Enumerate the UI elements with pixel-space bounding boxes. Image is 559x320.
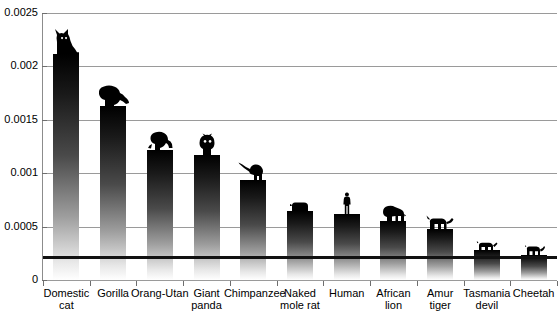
bar-chart: 0.00250.0020.00150.0010.00050 Domesticca… (0, 0, 559, 320)
category-label: Cheetah (504, 287, 559, 299)
tasmanian-devil-icon (476, 241, 498, 250)
x-axis-tick-mark (230, 281, 231, 286)
gorilla-icon (96, 84, 130, 106)
category-label-line1: Cheetah (513, 287, 555, 299)
category-label-line1: Naked (284, 287, 316, 299)
y-axis-tick-text: 0.001 (0, 167, 38, 178)
bar (521, 255, 547, 280)
bar (53, 54, 79, 280)
x-axis-tick-mark (90, 281, 91, 286)
bar (334, 214, 360, 280)
y-axis-tick-text: 0.0005 (0, 221, 38, 232)
bar (100, 106, 126, 280)
y-axis-tick-label: 0.0025 (0, 7, 38, 18)
y-axis-tick-mark (42, 13, 47, 14)
y-axis-tick-label: 0.002 (0, 60, 38, 71)
x-axis-tick-mark (136, 281, 137, 286)
tiger-icon (426, 215, 454, 229)
category-label-line1: Gorilla (97, 287, 129, 299)
y-axis-tick-label: 0.001 (0, 167, 38, 178)
y-axis-tick-text: 0.0025 (0, 7, 38, 18)
human-icon (342, 192, 352, 214)
plot-top-border (43, 13, 557, 14)
y-axis-tick-mark (42, 66, 47, 67)
x-axis-tick-mark (277, 281, 278, 286)
y-axis-tick-label: 0.0015 (0, 114, 38, 125)
y-axis-tick-mark (42, 227, 47, 228)
y-axis-tick-mark (42, 120, 47, 121)
y-axis-tick-text: 0.0015 (0, 114, 38, 125)
y-axis-tick-mark (42, 173, 47, 174)
y-axis-line (42, 13, 43, 280)
category-label-line2: mole rat (271, 299, 330, 311)
panda-icon (196, 133, 218, 155)
bar (147, 150, 173, 280)
category-label-line2: panda (177, 299, 236, 311)
gridline (43, 280, 557, 281)
gridline (43, 66, 557, 67)
bar (287, 211, 313, 280)
cheetah-icon (523, 245, 545, 255)
mole-rat-icon (290, 201, 310, 211)
cat-icon (53, 28, 79, 54)
y-axis-tick-label: 0 (0, 274, 38, 285)
x-axis-tick-mark (417, 281, 418, 286)
category-label-line1: Domestic (43, 287, 89, 299)
y-axis-tick-text: 0.002 (0, 60, 38, 71)
category-label-line1: Giant (193, 287, 219, 299)
x-axis-tick-mark (557, 281, 558, 286)
chimpanzee-icon (238, 162, 268, 180)
orangutan-icon (147, 130, 173, 150)
lion-icon (380, 205, 406, 221)
x-axis-tick-mark (464, 281, 465, 286)
bar (240, 180, 266, 280)
x-axis-tick-mark (370, 281, 371, 286)
category-label-line1: African (376, 287, 410, 299)
category-label-line1: Human (329, 287, 364, 299)
category-label-line2: cat (37, 299, 96, 311)
bar (194, 155, 220, 280)
bar (427, 229, 453, 280)
y-axis-tick-text: 0 (0, 274, 38, 285)
bar (380, 221, 406, 280)
y-axis-tick-label: 0.0005 (0, 221, 38, 232)
category-label-line1: Amur (427, 287, 453, 299)
x-axis-tick-mark (510, 281, 511, 286)
x-axis-tick-mark (183, 281, 184, 286)
x-axis-tick-mark (323, 281, 324, 286)
x-axis-tick-mark (43, 281, 44, 286)
category-label-line2: devil (458, 299, 517, 311)
reference-line (43, 256, 557, 259)
